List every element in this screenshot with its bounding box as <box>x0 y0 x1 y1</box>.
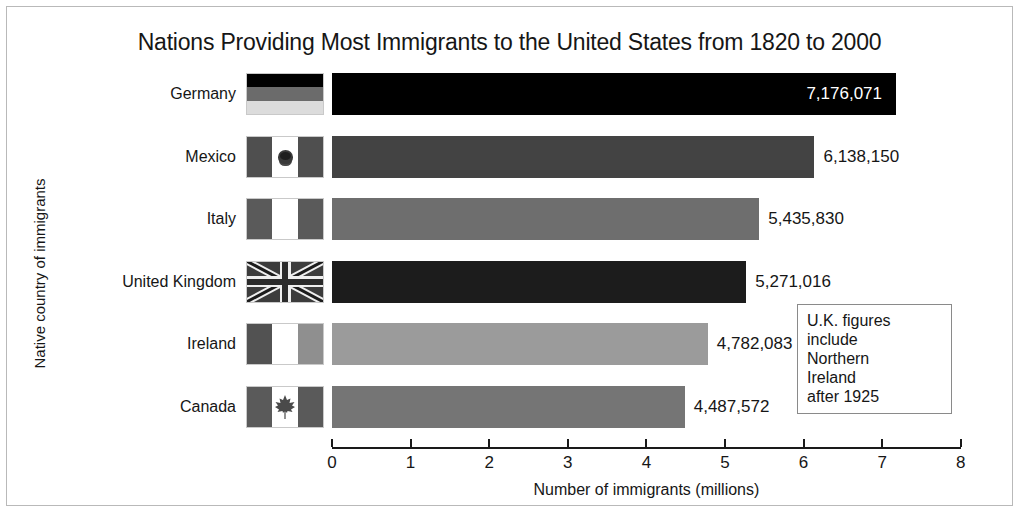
x-axis-tick <box>724 439 726 447</box>
bar-value-label: 4,487,572 <box>694 386 770 428</box>
bar-value-label: 6,138,150 <box>823 136 899 178</box>
bar-value-label: 5,435,830 <box>768 198 844 240</box>
flag-canada-icon <box>246 386 324 428</box>
x-axis-tick-label: 3 <box>548 453 588 473</box>
annotation-line: Ireland <box>807 368 943 387</box>
category-label-italy: Italy <box>207 196 236 242</box>
flag-italy-icon <box>246 198 324 240</box>
x-axis-tick <box>881 439 883 447</box>
x-axis-tick <box>488 439 490 447</box>
category-label-united-kingdom: United Kingdom <box>122 259 236 305</box>
category-label-canada: Canada <box>180 384 236 430</box>
bar-row: Mexico6,138,150 <box>7 134 1012 180</box>
x-axis-tick <box>960 439 962 447</box>
bar-ireland <box>332 323 708 365</box>
bar-mexico <box>332 136 814 178</box>
bar-italy <box>332 198 759 240</box>
category-label-mexico: Mexico <box>185 134 236 180</box>
x-axis-tick-label: 0 <box>312 453 352 473</box>
x-axis-tick-label: 1 <box>391 453 431 473</box>
annotation-line: U.K. figures <box>807 311 943 330</box>
annotation-line: after 1925 <box>807 387 943 406</box>
bar-value-label: 5,271,016 <box>755 261 831 303</box>
x-axis-tick-label: 4 <box>626 453 666 473</box>
x-axis-tick-label: 2 <box>469 453 509 473</box>
bar-row: Germany7,176,071 <box>7 71 1012 117</box>
x-axis-title: Number of immigrants (millions) <box>332 481 961 499</box>
x-axis-tick <box>410 439 412 447</box>
x-axis-tick-label: 8 <box>941 453 981 473</box>
category-label-germany: Germany <box>170 71 236 117</box>
flag-mexico-icon <box>246 136 324 178</box>
annotation-note: U.K. figuresincludeNorthernIrelandafter … <box>797 304 952 414</box>
chart-title: Nations Providing Most Immigrants to the… <box>7 29 1012 56</box>
x-axis-line <box>332 447 961 449</box>
annotation-line: include <box>807 330 943 349</box>
x-axis-tick-label: 7 <box>862 453 902 473</box>
chart-figure: Nations Providing Most Immigrants to the… <box>6 6 1013 506</box>
bar-canada <box>332 386 685 428</box>
bar-row: United Kingdom5,271,016 <box>7 259 1012 305</box>
x-axis-tick-label: 5 <box>705 453 745 473</box>
category-label-ireland: Ireland <box>187 321 236 367</box>
x-axis-tick <box>803 439 805 447</box>
annotation-line: Northern <box>807 349 943 368</box>
bar-value-label: 7,176,071 <box>332 73 882 115</box>
bar-united-kingdom <box>332 261 746 303</box>
x-axis-tick <box>645 439 647 447</box>
x-axis-tick <box>331 439 333 447</box>
flag-united-kingdom-icon <box>246 261 324 303</box>
bar-row: Italy5,435,830 <box>7 196 1012 242</box>
flag-germany-icon <box>246 73 324 115</box>
flag-ireland-icon <box>246 323 324 365</box>
x-axis-tick <box>567 439 569 447</box>
caption-strip <box>0 514 1023 526</box>
x-axis-tick-label: 6 <box>784 453 824 473</box>
bar-value-label: 4,782,083 <box>717 323 793 365</box>
